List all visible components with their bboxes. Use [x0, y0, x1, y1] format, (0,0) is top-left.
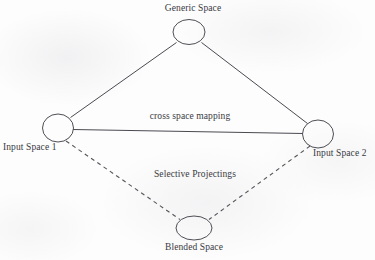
node-label-input-space-1: Input Space 1 [3, 141, 57, 153]
diagram-graphics [0, 0, 375, 260]
edge-input1-to-input2 [73, 130, 303, 134]
node-label-generic-space: Generic Space [155, 2, 231, 14]
node-generic-space[interactable] [173, 20, 205, 45]
node-label-input-space-2: Input Space 2 [313, 147, 367, 159]
node-blended-space[interactable] [176, 216, 212, 240]
edge-label-cross-space-mapping: cross space mapping [131, 110, 249, 122]
node-input-space-1[interactable] [43, 114, 74, 142]
edge-input2-to-blended [209, 146, 310, 220]
edge-generic-to-input1 [71, 43, 177, 118]
edge-input1-to-blended [66, 141, 180, 220]
diagram-canvas: Generic Space Input Space 1 Input Space … [0, 0, 375, 260]
node-input-space-2[interactable] [303, 120, 334, 148]
edge-label-selective-projectings: Selective Projectings [134, 168, 256, 180]
node-label-blended-space: Blended Space [158, 241, 230, 253]
